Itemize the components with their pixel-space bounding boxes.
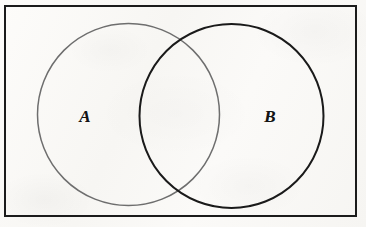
venn-diagram-figure: A B bbox=[0, 0, 366, 227]
set-a-label: A bbox=[79, 108, 91, 125]
universe-rectangle bbox=[5, 6, 356, 216]
set-b-circle bbox=[140, 24, 324, 208]
set-b-label: B bbox=[264, 108, 276, 125]
set-a-circle bbox=[38, 24, 220, 206]
venn-diagram-canvas bbox=[0, 0, 366, 227]
